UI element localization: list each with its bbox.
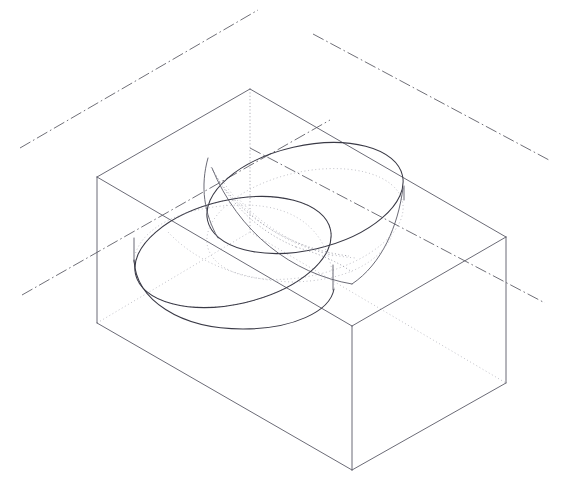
left-cylindrical-boss <box>124 179 342 329</box>
right-dome-boss <box>196 125 414 297</box>
block-top-front-left-edge <box>97 177 352 326</box>
block-visible-edges <box>97 89 506 470</box>
block-hidden-edges <box>97 89 506 383</box>
centerline-group <box>20 10 549 303</box>
right-boss-top-ellipse <box>196 125 414 271</box>
block-bottom-right-edge <box>352 383 506 470</box>
block-top-front-right-edge <box>352 237 506 326</box>
right-dome-meridian-right <box>352 188 403 284</box>
centerline-lower-left-axis <box>22 120 330 295</box>
centerline-upper-left <box>20 10 258 148</box>
intersection-curve-secondary <box>238 198 334 256</box>
left-boss-base-front-arc <box>134 260 334 329</box>
centerline-upper-right <box>313 34 549 160</box>
right-dome-meridian-hidden-a <box>211 167 349 256</box>
isometric-drawing <box>0 0 563 487</box>
hidden-bore-arc-left <box>168 232 292 282</box>
block-top-back-left-edge <box>97 89 250 177</box>
right-boss-base-ellipse-hidden <box>196 151 414 297</box>
centerline-lower-right-axis <box>250 148 545 303</box>
intersection-curve-upper <box>214 172 296 247</box>
drawing-canvas: Isometric Technical Drawing Rectangular … <box>0 0 563 487</box>
hidden-back-bottom-left-edge <box>97 232 250 323</box>
hidden-back-bottom-right-edge <box>250 232 506 383</box>
block-bottom-left-edge <box>97 323 352 470</box>
